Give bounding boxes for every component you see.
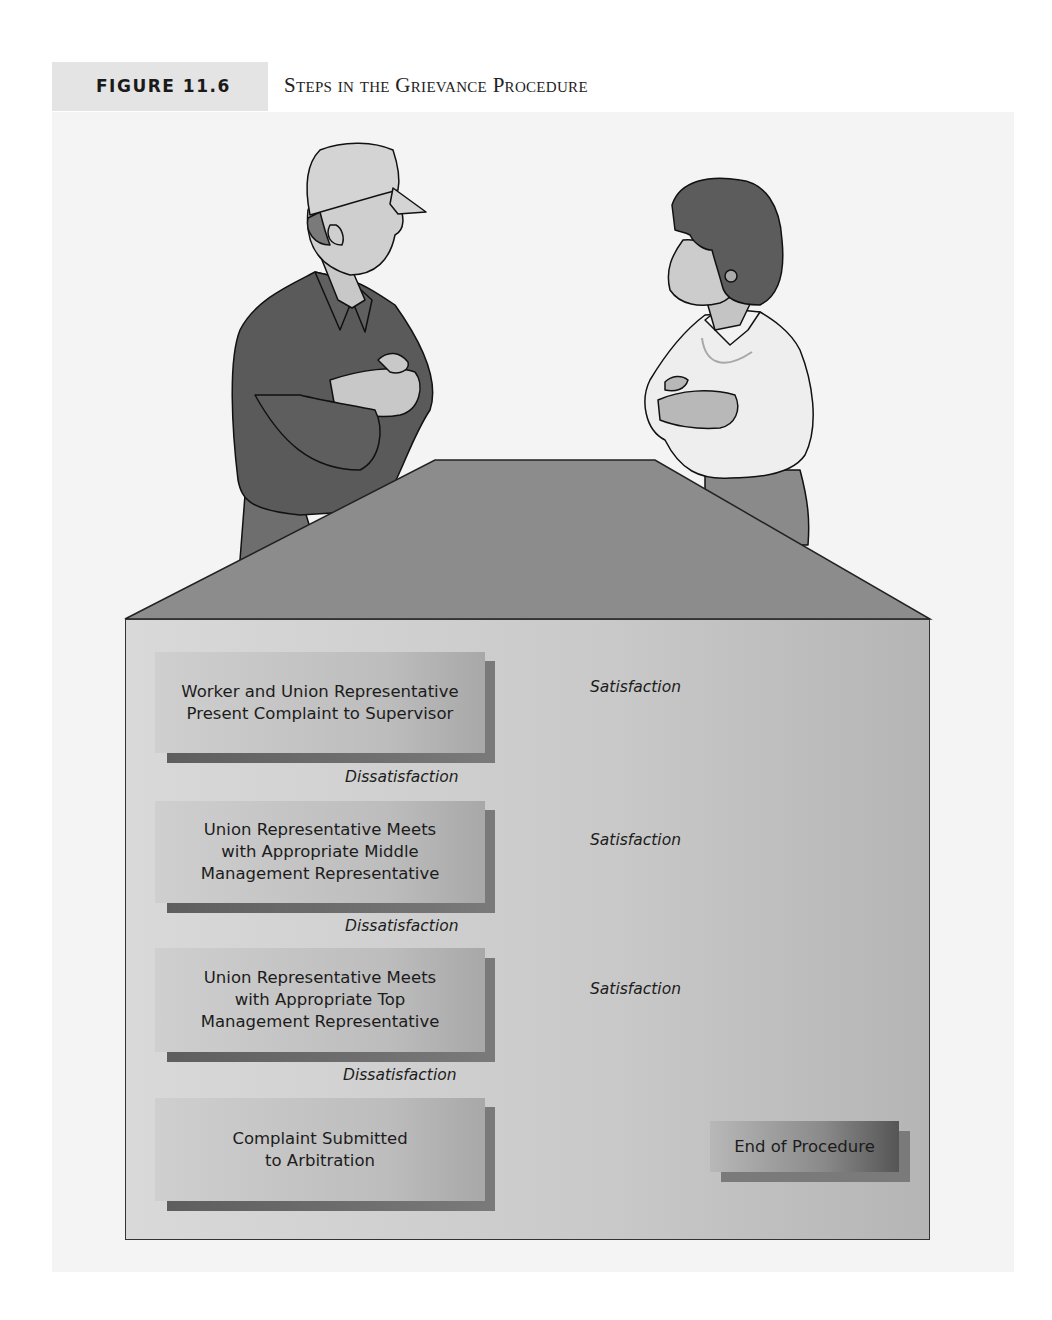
- step-4-box: Complaint Submitted to Arbitration: [155, 1098, 485, 1201]
- satisfaction-label-3: Satisfaction: [590, 980, 681, 998]
- step-3-box: Union Representative Meets with Appropri…: [155, 948, 485, 1052]
- dissatisfaction-label-1: Dissatisfaction: [345, 768, 459, 786]
- end-of-procedure-label: End of Procedure: [734, 1137, 875, 1156]
- satisfaction-label-2: Satisfaction: [590, 831, 681, 849]
- step-2-line-2: with Appropriate Middle: [201, 841, 440, 863]
- dissatisfaction-label-3: Dissatisfaction: [343, 1066, 457, 1084]
- step-3-line-1: Union Representative Meets: [201, 967, 440, 989]
- step-1-line-2: Present Complaint to Supervisor: [181, 703, 458, 725]
- step-2-line-3: Management Representative: [201, 863, 440, 885]
- step-4-line-1: Complaint Submitted: [232, 1128, 407, 1150]
- step-2-line-1: Union Representative Meets: [201, 819, 440, 841]
- end-of-procedure-box: End of Procedure: [710, 1121, 899, 1172]
- step-4-line-2: to Arbitration: [232, 1150, 407, 1172]
- step-3-line-3: Management Representative: [201, 1011, 440, 1033]
- dissatisfaction-label-2: Dissatisfaction: [345, 917, 459, 935]
- satisfaction-label-1: Satisfaction: [590, 678, 681, 696]
- step-1-line-1: Worker and Union Representative: [181, 681, 458, 703]
- step-2-box: Union Representative Meets with Appropri…: [155, 801, 485, 903]
- step-3-line-2: with Appropriate Top: [201, 989, 440, 1011]
- step-1-box: Worker and Union Representative Present …: [155, 652, 485, 753]
